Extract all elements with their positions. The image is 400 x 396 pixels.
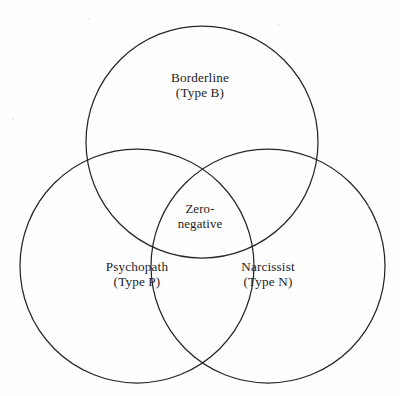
set-label-borderline: Borderline (Type B) bbox=[0, 71, 400, 101]
set-label-psychopath-line1: Psychopath bbox=[106, 259, 168, 274]
intersection-label-zero-negative: Zero- negative bbox=[0, 202, 400, 231]
set-label-narcissist-line1: Narcissist bbox=[241, 259, 295, 274]
set-label-borderline-line1: Borderline bbox=[171, 70, 229, 85]
venn-circles-group bbox=[0, 0, 400, 396]
intersection-label-zero-negative-line2: negative bbox=[0, 217, 400, 232]
scan-speckle bbox=[88, 18, 90, 20]
intersection-label-zero-negative-line1: Zero- bbox=[185, 202, 214, 216]
set-label-borderline-line2: (Type B) bbox=[0, 86, 400, 101]
set-label-narcissist: Narcissist (Type N) bbox=[173, 260, 363, 290]
scan-speckle bbox=[277, 24, 280, 26]
scan-speckle bbox=[12, 118, 14, 120]
set-label-narcissist-line2: (Type N) bbox=[173, 275, 363, 290]
venn-diagram: Borderline (Type B) Psychopath (Type P) … bbox=[0, 0, 400, 396]
